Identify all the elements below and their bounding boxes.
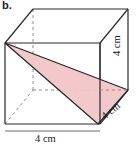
dimension-label-height: 4 cm [111, 35, 122, 56]
dimension-label-width: 4 cm [35, 133, 56, 144]
cube-diagram-svg [0, 0, 137, 149]
edge-top-left-depth [5, 9, 33, 43]
hidden-edge-bottom-left-depth [5, 90, 33, 124]
figure-container: b. 4 cm [0, 0, 137, 149]
